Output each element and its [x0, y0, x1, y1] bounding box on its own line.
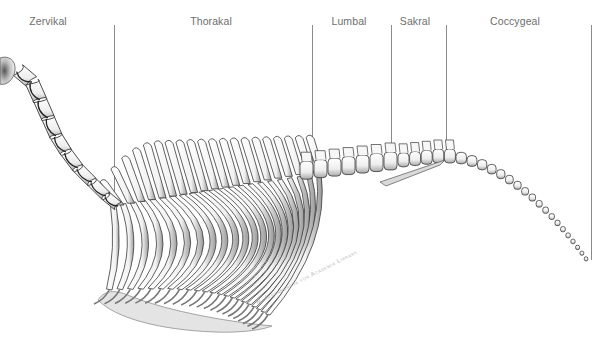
- cervical-vertebra: [51, 133, 71, 155]
- skull-fragment: [0, 57, 15, 84]
- coccygeal-vertebra: [543, 207, 549, 213]
- skeleton-illustration: [0, 0, 599, 347]
- rib: [117, 203, 134, 289]
- lumbar-vertebra-process: [385, 143, 396, 152]
- sacral-vertebra: [398, 153, 409, 167]
- coccygeal-vertebra: [505, 175, 513, 183]
- coccygeal-vertebra: [549, 214, 554, 220]
- coccygeal-vertebra: [487, 164, 496, 174]
- coccygeal-vertebra: [529, 194, 535, 201]
- lumbar-vertebra: [300, 161, 313, 179]
- cervical-vertebra: [34, 97, 54, 120]
- coccygeal-vertebra: [477, 160, 486, 170]
- sacral-vertebra: [421, 150, 432, 164]
- skeleton-diagram: Zervikal Thorakal Lumbal Sakral Coccygea…: [0, 0, 599, 347]
- lumbar-vertebra-process: [357, 146, 368, 155]
- rib: [107, 205, 120, 290]
- lumbar-vertebra: [384, 152, 397, 170]
- sacral-vertebra-process: [434, 140, 443, 149]
- lumbar-vertebra-process: [329, 149, 340, 158]
- coccygeal-vertebra: [514, 181, 521, 189]
- sacral-vertebra-process: [411, 143, 420, 152]
- coccygeal-vertebra: [536, 201, 542, 208]
- sacral-vertebra-process: [445, 140, 454, 149]
- cervical-vertebra: [26, 79, 46, 102]
- lumbar-vertebra: [328, 158, 341, 176]
- lumbar-vertebra: [370, 154, 383, 172]
- coccygeal-vertebra: [566, 233, 570, 238]
- lumbar-vertebra: [314, 160, 327, 178]
- coccygeal-vertebra: [456, 152, 466, 163]
- lumbar-vertebra-process: [301, 152, 312, 161]
- sacral-vertebra-process: [399, 144, 408, 153]
- cervical-vertebrae: [13, 65, 121, 210]
- coccygeal-vertebra: [571, 239, 575, 244]
- lumbar-vertebra: [342, 157, 355, 175]
- coccygeal-vertebra: [555, 220, 560, 225]
- coccygeal-vertebra: [584, 257, 587, 261]
- coccygeal-vertebra: [576, 245, 580, 249]
- cervical-vertebra: [42, 115, 61, 138]
- coccygeal-vertebra: [522, 188, 529, 195]
- coccygeal-vertebra: [467, 156, 477, 167]
- coccygeal-vertebra: [580, 251, 584, 255]
- lumbar-vertebra-process: [371, 145, 382, 154]
- lumbar-vertebra-process: [343, 148, 354, 157]
- lumbar-vertebra: [356, 155, 369, 173]
- sacral-vertebra: [410, 152, 421, 166]
- coccygeal-vertebra: [497, 170, 505, 179]
- vertebral-column: [300, 140, 588, 261]
- lumbar-vertebra-process: [315, 151, 326, 160]
- cervical-vertebra: [103, 192, 121, 210]
- sacral-vertebra: [444, 149, 455, 163]
- sacral-vertebra-process: [422, 141, 431, 150]
- coccygeal-vertebra: [561, 227, 566, 232]
